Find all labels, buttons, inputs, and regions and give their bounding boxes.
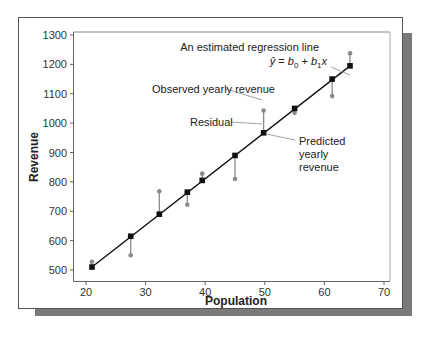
annotation-predicted-2: yearly: [299, 148, 329, 160]
chart-frame: [19, 18, 403, 309]
predicted-point: [157, 211, 163, 217]
frame-shadow-right: [403, 33, 412, 316]
annotation-observed: Observed yearly revenue: [152, 83, 275, 95]
x-tick-label: 20: [80, 286, 92, 298]
predicted-point: [261, 130, 267, 136]
predicted-point: [89, 264, 95, 270]
eq-x: x: [321, 55, 328, 67]
annotation-predicted-3: revenue: [299, 161, 339, 173]
predicted-point: [185, 189, 191, 195]
predicted-point: [292, 106, 298, 112]
y-tick-label: 800: [49, 176, 67, 188]
predicted-point: [232, 153, 238, 159]
chart-figure: 5006007008009001000110012001300 20304050…: [0, 0, 424, 344]
annotation-residual: Residual: [190, 116, 233, 128]
y-tick-label: 500: [49, 264, 67, 276]
y-tick-label: 700: [49, 205, 67, 217]
y-tick-label: 1200: [43, 58, 67, 70]
observed-point: [348, 51, 353, 56]
y-tick-label: 900: [49, 147, 67, 159]
y-tick-label: 1100: [43, 88, 67, 100]
observed-point: [200, 171, 205, 176]
frame-shadow-bottom: [35, 308, 412, 316]
y-tick-label: 1300: [43, 29, 67, 41]
predicted-point: [128, 233, 134, 239]
observed-point: [90, 259, 95, 264]
x-tick-label: 70: [378, 286, 390, 298]
y-tick-label: 1000: [43, 117, 67, 129]
y-axis-label: Revenue: [27, 132, 41, 182]
observed-point: [157, 189, 162, 194]
y-tick-label: 600: [49, 235, 67, 247]
annotation-predicted-1: Predicted: [299, 135, 345, 147]
observed-point: [185, 202, 190, 207]
predicted-point: [199, 178, 205, 184]
annotation-regression-title: An estimated regression line: [180, 41, 319, 53]
eq-plus: +: [298, 55, 311, 67]
observed-point: [330, 94, 335, 99]
predicted-point: [329, 76, 335, 82]
x-tick-label: 60: [318, 286, 330, 298]
x-tick-label: 30: [139, 286, 151, 298]
observed-point: [261, 108, 266, 113]
observed-point: [128, 253, 133, 258]
observed-point: [233, 177, 238, 182]
predicted-point: [347, 63, 353, 69]
x-axis-label: Population: [205, 294, 267, 308]
eq-equals: =: [275, 55, 288, 67]
